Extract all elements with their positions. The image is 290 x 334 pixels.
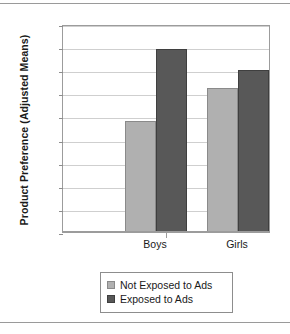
legend-item-label: Exposed to Ads <box>120 293 193 305</box>
x-axis-category-label: Boys <box>115 238 195 250</box>
y-axis-tick <box>59 234 63 235</box>
legend-swatch-icon <box>107 281 115 289</box>
bar <box>207 88 238 232</box>
plot-area: 1.81.61.41.210.80.60.40.20 <box>62 25 270 233</box>
legend-item: Exposed to Ads <box>107 293 226 305</box>
bar <box>156 49 187 232</box>
bar-chart-figure: Product Preference (Adjusted Means) 1.81… <box>0 4 290 320</box>
axis-baseline <box>63 231 269 232</box>
chart-legend: Not Exposed to Ads Exposed to Ads <box>100 272 233 313</box>
bar <box>125 121 156 232</box>
y-axis-title: Product Preference (Adjusted Means) <box>18 15 30 245</box>
legend-item: Not Exposed to Ads <box>107 279 226 291</box>
legend-swatch-icon <box>107 295 115 303</box>
divider-bottom <box>0 322 290 323</box>
x-axis-category-label: Girls <box>197 238 277 250</box>
bar <box>238 70 269 232</box>
bar-group <box>63 26 269 232</box>
legend-item-label: Not Exposed to Ads <box>120 279 212 291</box>
